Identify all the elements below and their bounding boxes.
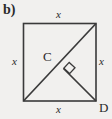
side-label-left: x — [12, 56, 17, 67]
vertex-label-c: C — [43, 50, 52, 63]
part-label: b) — [3, 3, 15, 17]
vertex-label-d: D — [99, 101, 108, 114]
side-label-right: x — [99, 56, 104, 67]
side-label-bottom: x — [56, 104, 61, 115]
side-label-top: x — [56, 9, 61, 20]
right-angle-marker — [64, 62, 75, 73]
perpendicular-segment — [64, 69, 97, 102]
geometry-figure-b: b) x x x x C D — [0, 0, 112, 119]
